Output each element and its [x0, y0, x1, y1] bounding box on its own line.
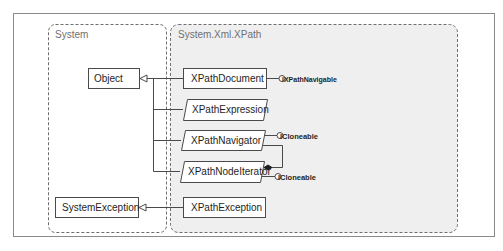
- package-system-label: System: [55, 29, 88, 40]
- class-object[interactable]: Object: [89, 69, 140, 89]
- class-xpath-node-iterator[interactable]: XPathNodeIterator: [181, 162, 272, 183]
- class-system-exception-label: SystemException: [62, 202, 139, 213]
- interface-icloneable-iterator-label: ICloneable: [278, 173, 316, 182]
- interface-icloneable-navigator-label: ICloneable: [280, 132, 318, 141]
- class-xpath-exception[interactable]: XPathException: [184, 198, 266, 218]
- class-diagram: System System.Xml.XPath Object SystemExc…: [0, 0, 503, 251]
- class-xpath-navigator-label: XPathNavigator: [191, 135, 262, 146]
- package-xpath-label: System.Xml.XPath: [178, 29, 261, 40]
- class-xpath-expression[interactable]: XPathExpression: [184, 100, 269, 121]
- class-xpath-document[interactable]: XPathDocument: [184, 69, 267, 89]
- class-xpath-navigator[interactable]: XPathNavigator: [182, 131, 266, 151]
- class-object-label: Object: [94, 73, 123, 84]
- class-xpath-expression-label: XPathExpression: [192, 104, 269, 115]
- class-system-exception[interactable]: SystemException: [56, 198, 140, 218]
- class-xpath-document-label: XPathDocument: [191, 73, 264, 84]
- class-xpath-exception-label: XPathException: [191, 202, 262, 213]
- class-xpath-node-iterator-label: XPathNodeIterator: [188, 166, 271, 177]
- interface-ixpathnavigable-label: IXPathNavigable: [282, 76, 337, 84]
